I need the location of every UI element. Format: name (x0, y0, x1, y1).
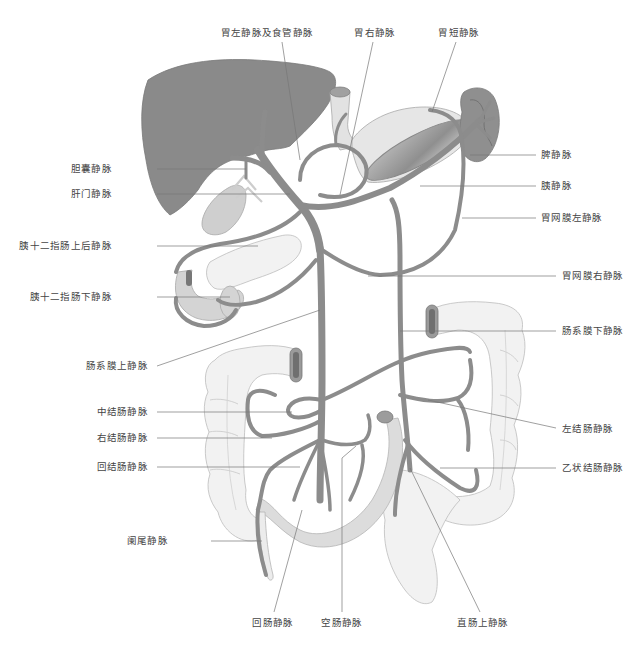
spleen (460, 88, 500, 162)
label-right-colic-vein: 右结肠静脉 (97, 432, 149, 444)
label-jejunal-veins: 空肠静脉 (321, 617, 362, 629)
label-inferior-pancreaticoduodenal-vein: 胰十二指肠下静脉 (30, 291, 112, 303)
label-middle-colic-vein: 中结肠静脉 (97, 406, 149, 418)
gallbladder (202, 185, 246, 235)
portal-venous-system-diagram: 胃左静脉及食管静脉 胃右静脉 胃短静脉 胆囊静脉 肝门静脉 胰十二指肠上后静脉 … (0, 0, 641, 651)
label-ileocolic-vein: 回结肠静脉 (97, 461, 149, 473)
label-pancreatic-vein: 胰静脉 (541, 180, 572, 192)
label-appendicular-vein: 阑尾静脉 (127, 535, 168, 547)
label-right-gastroepiploic-vein: 胃网膜右静脉 (562, 270, 624, 282)
label-right-gastric-vein: 胃右静脉 (354, 27, 395, 39)
label-inferior-mesenteric-vein: 肠系膜下静脉 (562, 325, 624, 337)
label-splenic-vein: 脾静脉 (541, 149, 572, 161)
label-superior-mesenteric-vein: 肠系膜上静脉 (86, 360, 148, 372)
label-left-colic-vein: 左结肠静脉 (562, 423, 614, 435)
label-portal-vein: 肝门静脉 (71, 188, 112, 200)
label-short-gastric-vein: 胃短静脉 (438, 27, 479, 39)
anatomy-illustration (0, 0, 641, 651)
label-left-gastric-vein: 胃左静脉及食管静脉 (221, 27, 314, 39)
ileum-cut-end (377, 411, 393, 423)
transverse-colon-cut-ends (290, 305, 438, 382)
label-cystic-vein: 胆囊静脉 (71, 163, 112, 175)
label-sigmoid-veins: 乙状结肠静脉 (562, 462, 624, 474)
label-posterior-superior-pancreaticoduodenal-vein: 胰十二指肠上后静脉 (19, 240, 112, 252)
label-superior-rectal-vein: 直肠上静脉 (457, 617, 509, 629)
label-ileal-veins: 回肠静脉 (252, 617, 293, 629)
label-left-gastroepiploic-vein: 胃网膜左静脉 (541, 212, 603, 224)
